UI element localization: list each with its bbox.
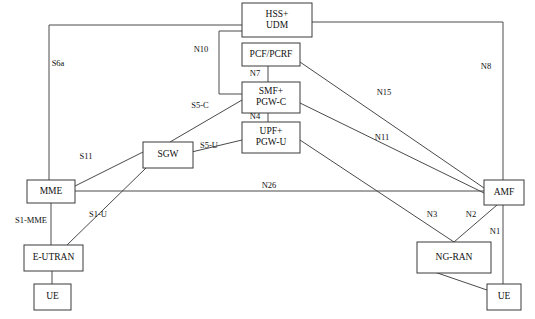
network-diagram: HSS+UDMPCF/PCRFSMF+PGW-CUPF+PGW-USGWMMEE…	[0, 0, 535, 319]
node-amf[interactable]: AMF	[484, 180, 524, 205]
node-label-ue-left: UE	[46, 291, 59, 301]
edge-label-n2: N2	[466, 209, 476, 219]
node-pcf-pcrf[interactable]: PCF/PCRF	[242, 43, 300, 66]
node-upf-pgwu[interactable]: UPF+PGW-U	[242, 122, 300, 153]
node-label-sgw: SGW	[157, 149, 178, 159]
node-ng-ran[interactable]: NG-RAN	[417, 242, 491, 273]
network-diagram-canvas: HSS+UDMPCF/PCRFSMF+PGW-CUPF+PGW-USGWMMEE…	[0, 0, 535, 319]
edge-label-n7: N7	[250, 68, 260, 78]
node-hss-udm[interactable]: HSS+UDM	[242, 3, 312, 37]
node-label-e-utran: E-UTRAN	[33, 252, 75, 262]
edge-label-s1mme: S1-MME	[15, 215, 47, 225]
edge-label-s1u: S1-U	[89, 209, 107, 219]
edge-label-s5c: S5-C	[191, 100, 209, 110]
edge-label-s6a: S6a	[52, 58, 65, 68]
edge-label-s5u: S5-U	[200, 140, 218, 150]
edge-label-n11: N11	[375, 132, 389, 142]
edge-label-n4: N4	[250, 111, 261, 121]
edge-label-n10: N10	[194, 44, 209, 54]
node-label-amf: AMF	[494, 187, 515, 197]
link-n15	[300, 62, 484, 188]
node-label-hss-udm: HSS+	[266, 9, 289, 19]
node-ue-right[interactable]: UE	[487, 284, 521, 310]
edge-label-n3: N3	[427, 209, 437, 219]
edge-label-n8: N8	[481, 61, 491, 71]
link-n8-right	[312, 22, 503, 190]
link-s1u	[67, 168, 146, 245]
link-n10	[219, 31, 242, 94]
node-ue-left[interactable]: UE	[34, 284, 71, 310]
node-mme[interactable]: MME	[27, 180, 75, 203]
node-e-utran[interactable]: E-UTRAN	[24, 245, 83, 271]
edge-label-n1: N1	[490, 226, 500, 236]
node-label-upf-pgwu: UPF+	[260, 126, 283, 136]
node-label-ng-ran: NG-RAN	[436, 252, 473, 262]
edge-label-n26: N26	[262, 180, 277, 190]
node-sgw[interactable]: SGW	[143, 142, 193, 168]
node-label-mme: MME	[40, 186, 63, 196]
node-label-smf-pgwc: SMF+	[259, 86, 283, 96]
node-smf-pgwc[interactable]: SMF+PGW-C	[242, 82, 300, 113]
edge-label-n15: N15	[377, 87, 392, 97]
link-s6a-top	[49, 25, 242, 203]
node-label-upf-pgwu: PGW-U	[256, 137, 287, 147]
node-label-hss-udm: UDM	[266, 20, 289, 30]
link-n11	[300, 103, 484, 193]
node-label-smf-pgwc: PGW-C	[256, 97, 286, 107]
edge-label-s11: S11	[80, 151, 93, 161]
node-label-ue-right: UE	[498, 291, 511, 301]
node-label-pcf-pcrf: PCF/PCRF	[250, 49, 293, 59]
nodes-layer: HSS+UDMPCF/PCRFSMF+PGW-CUPF+PGW-USGWMMEE…	[24, 3, 524, 310]
